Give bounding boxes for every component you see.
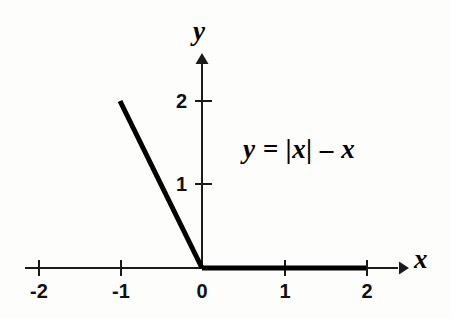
y-axis-label: y <box>193 18 205 45</box>
equation-annotation: y = |x| – x <box>243 136 355 163</box>
function-curve <box>120 101 366 268</box>
y-axis-ticks <box>195 101 212 184</box>
x-tick-label-zero: 0 <box>196 281 207 301</box>
y-tick-label-1: 1 <box>171 174 187 194</box>
x-axis-label: x <box>414 246 428 273</box>
graph-figure: y x -2 -1 0 1 2 2 1 y = |x| – x <box>0 0 451 318</box>
x-axis-arrow-icon <box>399 262 409 275</box>
function-segment-negative-branch <box>120 101 202 268</box>
x-tick-label-2: 2 <box>361 281 372 301</box>
y-axis-arrow-icon <box>196 53 209 64</box>
x-tick-label-neg1: -1 <box>112 281 130 301</box>
x-tick-label-1: 1 <box>279 281 290 301</box>
y-tick-label-2: 2 <box>171 91 187 111</box>
x-tick-label-neg2: -2 <box>30 281 48 301</box>
coordinate-plot <box>0 0 451 318</box>
